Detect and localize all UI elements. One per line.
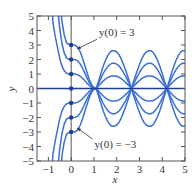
solution-curve	[48, 0, 185, 101]
y-tick-label: −5	[22, 155, 34, 167]
y-tick-label: −4	[22, 141, 34, 153]
initial-value-dot	[69, 101, 73, 105]
x-tick-label: 1	[91, 163, 97, 175]
chart: −1012345−5−4−3−2−1012345 y(0) = 3y(0) = …	[0, 0, 196, 188]
y-axis-title: y	[5, 86, 17, 92]
y-tick-label: 4	[29, 25, 35, 37]
x-axis-title: x	[112, 173, 118, 185]
x-tick-label: −1	[43, 163, 55, 175]
x-tick-label: 0	[68, 163, 74, 175]
x-tick-label: 4	[159, 163, 165, 175]
initial-value-dot	[69, 57, 73, 61]
y-tick-label: 3	[29, 39, 35, 51]
y-tick-label: 1	[29, 68, 35, 80]
x-tick-label: 5	[182, 163, 188, 175]
initial-value-dot	[69, 115, 73, 119]
y-tick-label: 2	[29, 54, 35, 66]
initial-value-dot	[69, 86, 73, 90]
x-tick-label: 3	[137, 163, 143, 175]
initial-value-dot	[69, 72, 73, 76]
y-tick-label: −3	[22, 126, 34, 138]
initial-value-dot	[69, 43, 73, 47]
initial-value-dot	[69, 130, 73, 134]
y-tick-label: 0	[29, 83, 35, 95]
annotation-label: y(0) = −3	[94, 138, 136, 151]
y-tick-label: −2	[22, 112, 34, 124]
y-tick-label: 5	[29, 10, 35, 22]
y-tick-label: −1	[22, 97, 34, 109]
annotation-label: y(0) = 3	[99, 26, 135, 39]
